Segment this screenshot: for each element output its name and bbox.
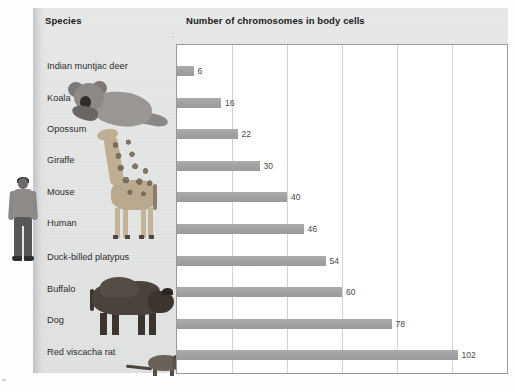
chart-page: Species Number of chromosomes in body ce…: [0, 0, 516, 391]
scan-artifact: [172, 36, 174, 38]
bar: [177, 287, 342, 297]
bar-value-label: 16: [225, 98, 234, 108]
chart-plot-area: [176, 44, 508, 374]
species-label: Opossum: [47, 124, 86, 134]
bar-value-label: 60: [346, 287, 355, 297]
bar: [177, 129, 238, 139]
bar: [177, 256, 326, 266]
species-label: Mouse: [47, 187, 75, 197]
scan-artifact: [2, 379, 6, 381]
bar-value-label: 54: [330, 256, 339, 266]
giraffe-illustration: [85, 128, 165, 240]
bar-value-label: 78: [396, 319, 405, 329]
buffalo-illustration: [88, 275, 180, 337]
bar-value-label: 102: [462, 350, 476, 360]
bar: [177, 98, 221, 108]
species-label: Indian muntjac deer: [47, 61, 128, 71]
species-column-header: Species: [45, 15, 82, 26]
bar-value-label: 30: [264, 161, 273, 171]
bar: [177, 161, 260, 171]
bar-value-label: 22: [242, 129, 251, 139]
human-illustration: [6, 178, 40, 262]
species-label: Dog: [47, 315, 64, 325]
species-label: Giraffe: [47, 155, 74, 165]
bar: [177, 224, 304, 234]
chart-column-header: Number of chromosomes in body cells: [186, 15, 365, 26]
species-label: Buffalo: [47, 284, 75, 294]
species-label: Human: [47, 218, 77, 228]
bar-value-label: 40: [291, 192, 300, 202]
bar: [177, 350, 458, 360]
species-label: Koala: [47, 93, 71, 103]
species-label: Duck-billed platypus: [47, 252, 129, 262]
gridline: [452, 45, 453, 373]
bar-value-label: 6: [198, 66, 203, 76]
bar-value-label: 46: [308, 224, 317, 234]
bar: [177, 192, 287, 202]
bar: [177, 319, 392, 329]
bar: [177, 66, 194, 76]
species-label: Red viscacha rat: [47, 347, 115, 357]
